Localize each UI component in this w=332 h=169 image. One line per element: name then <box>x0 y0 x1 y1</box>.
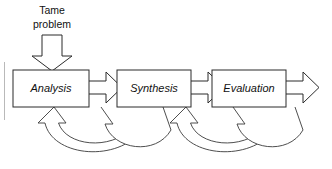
box-label-evaluation: Evaluation <box>223 82 274 94</box>
input-label-line1: Tame <box>39 4 65 16</box>
box-label-analysis: Analysis <box>30 82 72 94</box>
input-label-line2: problem <box>33 18 71 30</box>
input-down-arrow <box>32 35 72 71</box>
box-label-synthesis: Synthesis <box>130 82 178 94</box>
diagram-canvas: Analysis Synthesis Evaluation Tame probl… <box>0 0 332 169</box>
arrow-evaluation-output <box>285 72 319 103</box>
process-flow-diagram: Analysis Synthesis Evaluation Tame probl… <box>0 0 332 169</box>
